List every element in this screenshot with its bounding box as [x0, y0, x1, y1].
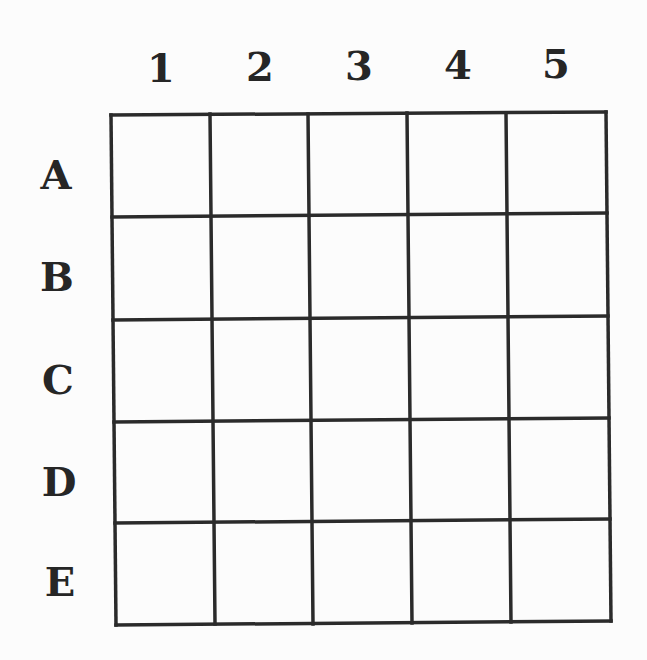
- grid-5x5: [0, 0, 647, 660]
